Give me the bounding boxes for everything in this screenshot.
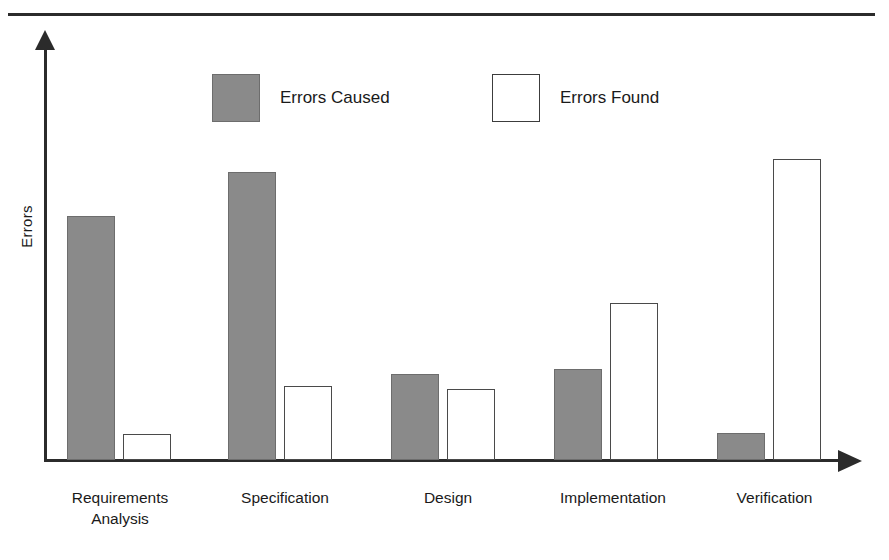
bar-caused-4 [554,369,602,460]
x-axis-label-3: Design [368,487,528,508]
legend-item-errors-caused: Errors Caused [212,74,390,122]
bar-caused-5 [717,433,765,460]
x-axis-label-4: Implementation [528,487,698,508]
x-axis-arrow-icon [838,450,862,472]
chart-figure: Errors Requirements AnalysisSpecificatio… [0,0,889,560]
bar-caused-3 [391,374,439,460]
legend-label-errors-found: Errors Found [560,88,659,108]
bar-found-3 [447,389,495,460]
legend-item-errors-found: Errors Found [492,74,659,122]
y-axis-title: Errors [18,187,35,267]
bar-found-5 [773,159,821,460]
legend-swatch-errors-caused-icon [212,74,260,122]
bar-caused-2 [228,172,276,460]
plot-area: Errors Requirements AnalysisSpecificatio… [0,0,889,560]
x-axis-label-2: Specification [205,487,365,508]
y-axis-arrow-icon [35,30,55,50]
legend-label-errors-caused: Errors Caused [280,88,390,108]
bar-found-4 [610,303,658,460]
x-axis-label-1: Requirements Analysis [40,487,200,529]
bar-found-1 [123,434,171,460]
bar-caused-1 [67,216,115,460]
y-axis-line [44,46,47,462]
x-axis-label-5: Verification [692,487,857,508]
bar-found-2 [284,386,332,460]
legend-swatch-errors-found-icon [492,74,540,122]
